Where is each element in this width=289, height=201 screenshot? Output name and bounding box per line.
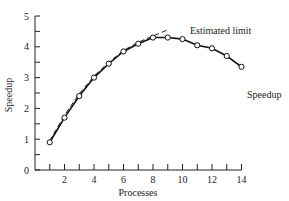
y-tick-label: 5 xyxy=(24,11,29,22)
y-tick-label: 2 xyxy=(24,103,29,114)
axes: 0123452468101214 xyxy=(24,11,247,186)
speedup-chart: 0123452468101214 Processes Speedup Estim… xyxy=(0,0,289,201)
y-tick-label: 3 xyxy=(24,72,29,83)
data-point-marker xyxy=(209,46,214,51)
chart-container: 0123452468101214 Processes Speedup Estim… xyxy=(0,0,289,201)
data-point-marker xyxy=(150,35,155,40)
x-tick-label: 8 xyxy=(151,174,156,185)
x-tick-label: 2 xyxy=(62,174,67,185)
y-tick-label: 0 xyxy=(24,165,29,176)
y-axis-label: Speedup xyxy=(3,78,14,112)
data-point-marker xyxy=(62,115,67,120)
estimated-limit-line xyxy=(50,30,168,141)
data-point-marker xyxy=(180,37,185,42)
x-tick-label: 12 xyxy=(207,174,217,185)
x-tick-label: 14 xyxy=(237,174,247,185)
speedup-label: Speedup xyxy=(247,89,281,100)
x-tick-label: 4 xyxy=(92,174,97,185)
data-point-marker xyxy=(47,140,52,145)
data-point-marker xyxy=(106,61,111,66)
data-point-marker xyxy=(136,41,141,46)
series-layer xyxy=(47,30,244,145)
data-point-marker xyxy=(77,93,82,98)
data-point-marker xyxy=(121,49,126,54)
y-tick-label: 1 xyxy=(24,134,29,145)
estimated-limit-label: Estimated limit xyxy=(190,25,252,36)
x-axis-label: Processes xyxy=(119,187,158,198)
y-tick-label: 4 xyxy=(24,41,29,52)
data-point-marker xyxy=(165,35,170,40)
x-tick-label: 10 xyxy=(178,174,188,185)
x-tick-label: 6 xyxy=(121,174,126,185)
speedup-line xyxy=(50,38,242,143)
data-point-marker xyxy=(91,75,96,80)
data-point-marker xyxy=(224,53,229,58)
data-point-marker xyxy=(195,43,200,48)
data-point-marker xyxy=(239,64,244,69)
